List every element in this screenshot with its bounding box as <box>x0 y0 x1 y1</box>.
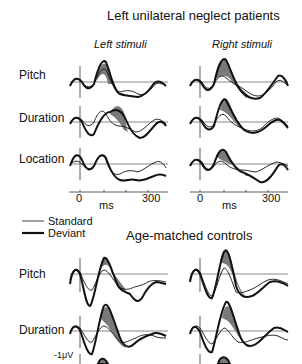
panel-patients-right-pitch <box>190 59 288 99</box>
erp-waveforms <box>0 0 302 364</box>
panel-patients-left-pitch <box>70 61 168 98</box>
x-axis-left <box>69 190 168 192</box>
panel-patients-right-duration <box>190 99 288 138</box>
panel-controls-right-duration <box>190 302 288 352</box>
x-axis-right <box>190 190 288 192</box>
panel-patients-left-duration <box>70 106 168 138</box>
panel-controls-partial-row <box>80 354 230 364</box>
panel-controls-right-pitch <box>190 250 288 298</box>
panel-patients-right-location <box>190 148 288 182</box>
panel-controls-left-pitch <box>70 257 168 306</box>
panel-patients-left-location <box>70 148 168 181</box>
panel-controls-left-duration <box>70 305 168 354</box>
